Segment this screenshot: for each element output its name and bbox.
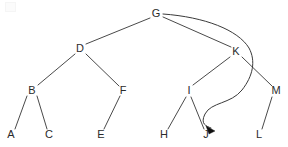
edges-group <box>15 17 272 129</box>
edge-k-i <box>193 57 230 85</box>
node-label-j: J <box>199 129 213 140</box>
edge-g-d <box>86 18 150 44</box>
node-label-l: L <box>252 129 266 140</box>
node-label-i: I <box>182 85 196 96</box>
node-label-b: B <box>25 85 39 96</box>
tree-edges-canvas <box>0 0 288 147</box>
edge-f-e <box>104 96 120 129</box>
edge-m-l <box>262 97 272 129</box>
node-label-e: E <box>94 129 108 140</box>
edge-b-c <box>37 96 47 129</box>
node-label-d: D <box>73 43 87 54</box>
back-edge-curve <box>163 14 253 128</box>
tree-diagram: GDKBFIMACEHJL <box>0 0 288 147</box>
edge-g-k <box>163 17 231 47</box>
node-label-g: G <box>149 8 163 19</box>
edge-b-a <box>15 96 27 129</box>
edge-d-f <box>86 54 119 86</box>
node-label-f: F <box>116 85 130 96</box>
edge-d-b <box>38 54 75 85</box>
edge-i-h <box>168 97 186 129</box>
edge-k-m <box>242 57 272 86</box>
node-label-h: H <box>157 129 171 140</box>
node-label-k: K <box>229 46 243 57</box>
node-label-a: A <box>4 129 18 140</box>
edge-i-j <box>191 97 204 129</box>
node-label-m: M <box>269 85 283 96</box>
node-label-c: C <box>42 129 56 140</box>
